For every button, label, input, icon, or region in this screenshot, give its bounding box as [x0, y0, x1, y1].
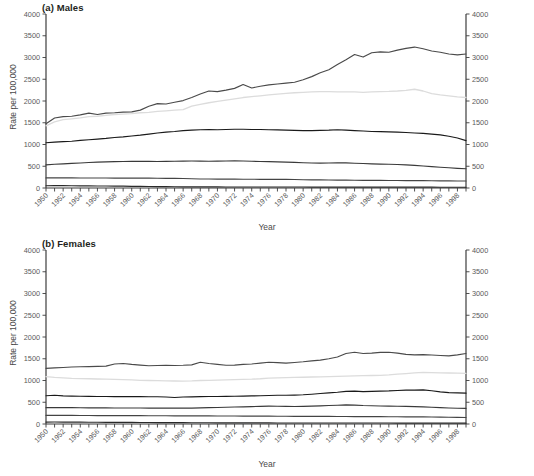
y-tick-label-left: 500 [28, 162, 40, 171]
x-tick-label: 1996 [427, 427, 445, 445]
y-tick-label-left: 2000 [24, 333, 40, 342]
x-tick-label: 1998 [444, 427, 462, 445]
plot-area-females: 0050050010001000150015002000200025002500… [0, 236, 534, 476]
y-tick-label-right: 3500 [472, 31, 488, 40]
plot-area-males: 0050050010001000150015002000200025002500… [0, 0, 534, 238]
x-tick-label: 1952 [49, 191, 67, 209]
series-line-75-84 [46, 89, 466, 126]
y-tick-label-right: 1500 [472, 118, 488, 127]
x-tick-label: 1984 [324, 427, 342, 445]
y-tick-label-right: 500 [472, 398, 484, 407]
y-tick-label-left: 3000 [24, 53, 40, 62]
y-tick-label-left: 1500 [24, 354, 40, 363]
x-tick-label: 1978 [272, 427, 290, 445]
x-tick-label: 1972 [221, 191, 239, 209]
x-tick-label: 1988 [358, 427, 376, 445]
series-line-65-74 [46, 129, 466, 142]
x-tick-label: 1966 [169, 191, 187, 209]
x-tick-label: 1956 [84, 427, 102, 445]
y-tick-label-right: 2000 [472, 333, 488, 342]
y-tick-label-left: 3000 [24, 289, 40, 298]
x-tick-label: 1950 [32, 191, 50, 209]
y-tick-label-right: 4000 [472, 10, 488, 19]
y-tick-label-right: 1000 [472, 140, 488, 149]
x-tick-label: 1968 [187, 191, 205, 209]
y-tick-label-right: 0 [472, 420, 476, 429]
x-tick-label: 1986 [341, 191, 359, 209]
x-tick-label: 1978 [272, 191, 290, 209]
series-line-55-64 [46, 405, 466, 409]
y-tick-label-right: 0 [472, 184, 476, 193]
y-tick-label-left: 3500 [24, 267, 40, 276]
y-tick-label-right: 500 [472, 162, 484, 171]
y-tick-label-left: 4000 [24, 10, 40, 19]
x-tick-label: 1956 [84, 191, 102, 209]
y-tick-label-right: 3500 [472, 267, 488, 276]
x-tick-label: 1986 [341, 427, 359, 445]
series-line-85-and-over [46, 47, 466, 124]
x-tick-label: 1992 [392, 191, 410, 209]
x-tick-label: 1996 [427, 191, 445, 209]
x-axis-label-males: Year [0, 222, 534, 232]
series-line-20-44 [46, 422, 466, 423]
x-tick-label: 1954 [67, 427, 85, 445]
x-tick-label: 1980 [289, 191, 307, 209]
x-tick-label: 1974 [238, 191, 256, 209]
x-tick-label: 1988 [358, 191, 376, 209]
x-tick-label: 1968 [187, 427, 205, 445]
y-tick-label-left: 3500 [24, 31, 40, 40]
series-line-65-74 [46, 390, 466, 398]
y-tick-label-right: 2000 [472, 97, 488, 106]
x-tick-label: 1972 [221, 427, 239, 445]
y-tick-label-left: 4000 [24, 246, 40, 255]
x-tick-label: 1958 [101, 191, 119, 209]
y-tick-label-left: 1000 [24, 376, 40, 385]
x-tick-label: 1974 [238, 427, 256, 445]
x-tick-label: 1984 [324, 191, 342, 209]
series-line-45-54 [46, 415, 466, 417]
x-tick-label: 1964 [152, 427, 170, 445]
x-tick-label: 1952 [49, 427, 67, 445]
y-tick-label-right: 1000 [472, 376, 488, 385]
series-line-45-54 [46, 178, 466, 181]
x-tick-label: 1970 [204, 191, 222, 209]
x-tick-label: 1982 [307, 427, 325, 445]
panel-males: (a) Males Rate per 100,000 0050050010001… [0, 0, 534, 238]
series-line-85-and-over [46, 352, 466, 368]
x-tick-label: 1980 [289, 427, 307, 445]
y-tick-label-left: 2500 [24, 311, 40, 320]
x-tick-label: 1966 [169, 427, 187, 445]
x-tick-label: 1990 [375, 427, 393, 445]
x-tick-label: 1970 [204, 427, 222, 445]
x-tick-label: 1994 [409, 191, 427, 209]
x-tick-label: 1964 [152, 191, 170, 209]
x-tick-label: 1998 [444, 191, 462, 209]
y-tick-label-right: 3000 [472, 53, 488, 62]
x-tick-label: 1962 [135, 191, 153, 209]
x-tick-label: 1976 [255, 427, 273, 445]
y-tick-label-right: 2500 [472, 75, 488, 84]
x-tick-label: 1958 [101, 427, 119, 445]
x-tick-label: 1960 [118, 427, 136, 445]
series-line-20-44 [46, 186, 466, 188]
y-tick-label-left: 1000 [24, 140, 40, 149]
y-tick-label-left: 0 [36, 184, 40, 193]
series-line-55-64 [46, 161, 466, 169]
y-tick-label-right: 4000 [472, 246, 488, 255]
y-tick-label-right: 2500 [472, 311, 488, 320]
x-tick-label: 1994 [409, 427, 427, 445]
x-tick-label: 1950 [32, 427, 50, 445]
x-tick-label: 1982 [307, 191, 325, 209]
series-line-75-84 [46, 372, 466, 381]
x-tick-label: 1976 [255, 191, 273, 209]
x-tick-label: 1954 [67, 191, 85, 209]
y-tick-label-left: 500 [28, 398, 40, 407]
y-tick-label-left: 0 [36, 420, 40, 429]
panel-females: (b) Females Rate per 100,000 00500500100… [0, 236, 534, 476]
x-tick-label: 1960 [118, 191, 136, 209]
y-tick-label-left: 2000 [24, 97, 40, 106]
x-axis-label-females: Year [0, 459, 534, 469]
y-tick-label-right: 3000 [472, 289, 488, 298]
y-tick-label-left: 2500 [24, 75, 40, 84]
x-tick-label: 1962 [135, 427, 153, 445]
